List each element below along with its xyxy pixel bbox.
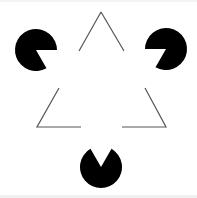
apex-right-line <box>101 12 124 51</box>
bottom-left-corner <box>37 88 81 127</box>
top-left-pacman-icon <box>15 29 57 71</box>
apex-left-line <box>79 12 101 51</box>
bottom-border-band <box>0 195 197 198</box>
bottom-pacman-icon <box>80 149 122 188</box>
figure-svg <box>0 0 197 198</box>
bottom-right-corner <box>122 88 166 127</box>
kanizsa-figure: Kanizsa triangle illusion <box>0 0 197 198</box>
top-right-pacman-icon <box>145 28 187 70</box>
